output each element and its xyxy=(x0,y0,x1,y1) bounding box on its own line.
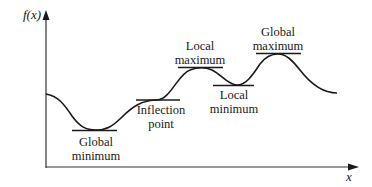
annotation-global-maximum: Global maximum xyxy=(253,25,304,53)
annotation-local-minimum: Local minimum xyxy=(210,88,259,116)
extrema-diagram: f(x) x Global minimum Inflection point L… xyxy=(0,0,372,187)
annotation-global-minimum: Global minimum xyxy=(72,135,121,163)
label-line: Local xyxy=(220,88,249,102)
label-line: minimum xyxy=(72,149,121,163)
label-line: Local xyxy=(186,39,215,53)
label-line: maximum xyxy=(253,39,304,53)
label-line: point xyxy=(148,117,174,131)
label-line: Global xyxy=(261,25,296,39)
diagram-canvas: f(x) x Global minimum Inflection point L… xyxy=(0,0,372,187)
label-line: maximum xyxy=(175,53,226,67)
annotation-local-maximum: Local maximum xyxy=(175,39,226,67)
label-line: Global xyxy=(79,135,114,149)
label-line: Inflection xyxy=(137,103,186,117)
y-axis-label: f(x) xyxy=(23,7,41,22)
x-axis-label: x xyxy=(345,169,352,184)
y-axis-arrow-icon xyxy=(43,10,50,20)
label-line: minimum xyxy=(210,102,259,116)
annotation-inflection-point: Inflection point xyxy=(137,103,186,131)
